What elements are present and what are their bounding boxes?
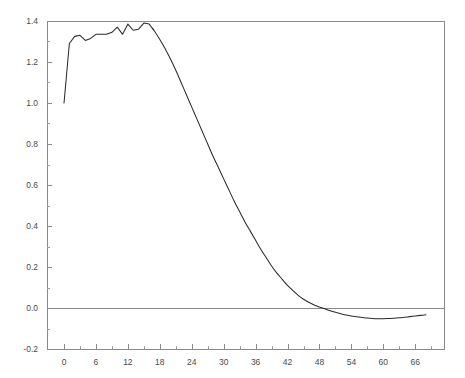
- y-tick-label: 0.8: [26, 139, 38, 149]
- x-tick-label: 12: [123, 357, 133, 367]
- axes-box: [47, 21, 444, 349]
- x-tick-label: 30: [219, 357, 229, 367]
- y-tick-label: 1.4: [26, 16, 38, 26]
- x-tick-label: 24: [187, 357, 197, 367]
- y-tick-label: 0.4: [26, 221, 38, 231]
- data-line-curve: [64, 23, 426, 319]
- x-tick-label: 36: [251, 357, 261, 367]
- y-axis-tick-labels: -0.20.00.20.40.60.81.01.21.4: [23, 16, 38, 354]
- x-axis-tick-labels: 0612182430364248546066: [62, 357, 421, 367]
- y-tick-label: 1.0: [26, 98, 38, 108]
- x-tick-label: 42: [283, 357, 293, 367]
- y-axis-major-ticks: [47, 22, 52, 350]
- x-tick-label: 54: [347, 357, 357, 367]
- plot-frame: [47, 21, 444, 349]
- data-series-group: [64, 23, 426, 319]
- x-tick-label: 48: [315, 357, 325, 367]
- y-tick-label: -0.2: [23, 344, 38, 354]
- y-tick-label: 1.2: [26, 57, 38, 67]
- y-tick-label: 0.0: [26, 303, 38, 313]
- x-tick-label: 6: [94, 357, 99, 367]
- y-tick-label: 0.2: [26, 262, 38, 272]
- chart-figure: 0612182430364248546066 -0.20.00.20.40.60…: [0, 0, 465, 378]
- x-tick-label: 66: [411, 357, 421, 367]
- x-tick-label: 60: [379, 357, 389, 367]
- x-tick-label: 18: [155, 357, 165, 367]
- y-tick-label: 0.6: [26, 180, 38, 190]
- line-chart-plot: 0612182430364248546066 -0.20.00.20.40.60…: [0, 0, 465, 378]
- x-tick-label: 0: [62, 357, 67, 367]
